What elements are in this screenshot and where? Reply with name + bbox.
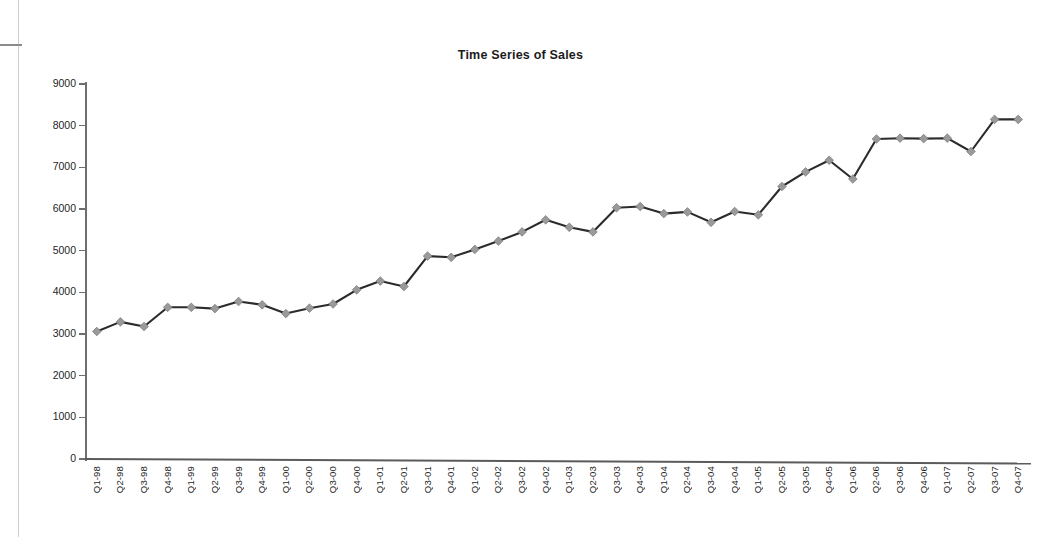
- data-point-marker: [683, 208, 692, 217]
- data-point-marker: [282, 309, 291, 318]
- data-point-marker: [93, 327, 102, 336]
- data-point-marker: [1014, 115, 1023, 124]
- data-point-marker: [494, 237, 503, 246]
- sales-series: [0, 0, 1041, 537]
- data-point-marker: [116, 318, 125, 327]
- data-point-marker: [258, 301, 267, 310]
- time-series-chart: Time Series of Sales 0100020003000400050…: [0, 0, 1041, 537]
- data-point-marker: [896, 134, 905, 143]
- data-point-marker: [447, 253, 456, 262]
- data-point-marker: [518, 228, 527, 237]
- data-point-marker: [636, 202, 645, 211]
- data-point-marker: [660, 209, 669, 218]
- data-point-marker: [471, 245, 480, 254]
- sales-line: [97, 119, 1018, 331]
- data-point-marker: [376, 277, 385, 286]
- data-point-marker: [211, 304, 220, 313]
- data-point-marker: [730, 207, 739, 216]
- data-point-marker: [234, 297, 243, 306]
- data-point-marker: [305, 304, 314, 313]
- data-point-marker: [919, 134, 928, 143]
- data-point-marker: [541, 216, 550, 225]
- data-point-marker: [187, 303, 196, 312]
- data-point-marker: [943, 134, 952, 143]
- data-point-marker: [707, 218, 716, 227]
- data-point-marker: [565, 223, 574, 232]
